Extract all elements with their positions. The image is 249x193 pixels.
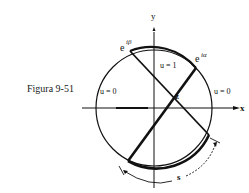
arc-s-right-tick (210, 138, 220, 143)
region-label-left: u = 0 (100, 87, 117, 96)
chord-alpha (128, 68, 196, 161)
region-label-right: u = 0 (214, 87, 231, 96)
arc-s-left (124, 171, 172, 183)
region-label-inner: u = 1 (160, 61, 177, 70)
e-alpha-base: e (195, 53, 200, 64)
x-axis-arrow-icon (233, 106, 240, 110)
z-label: z (175, 91, 179, 101)
unit-circle-diagram: y x e iβ e iα z u = 1 u = 0 u = 0 s (0, 0, 249, 193)
y-axis-label: y (151, 11, 156, 21)
e-alpha-exponent: iα (201, 51, 207, 59)
arc-s-label: s (177, 172, 181, 182)
boundary-arc (128, 135, 209, 168)
x-axis-label: x (240, 103, 245, 113)
e-beta-exponent: iβ (126, 38, 132, 46)
e-beta-base: e (120, 42, 125, 53)
y-axis-arrow-icon (153, 27, 156, 31)
